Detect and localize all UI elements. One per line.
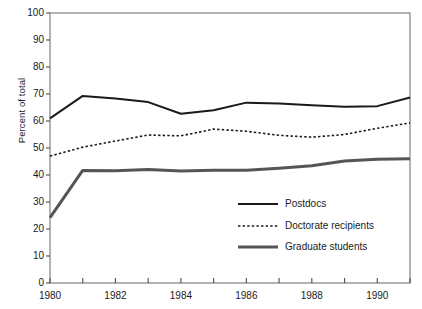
series-line	[50, 123, 410, 156]
legend-swatches	[238, 204, 278, 247]
chart-container: Percent of total 0102030405060708090100 …	[0, 0, 422, 309]
legend-label: Graduate students	[285, 242, 367, 252]
data-series	[50, 96, 410, 218]
legend-label: Postdocs	[285, 199, 326, 209]
series-line	[50, 96, 410, 118]
series-line	[50, 159, 410, 218]
plot-area	[0, 0, 422, 309]
legend-label: Doctorate recipients	[285, 221, 374, 231]
